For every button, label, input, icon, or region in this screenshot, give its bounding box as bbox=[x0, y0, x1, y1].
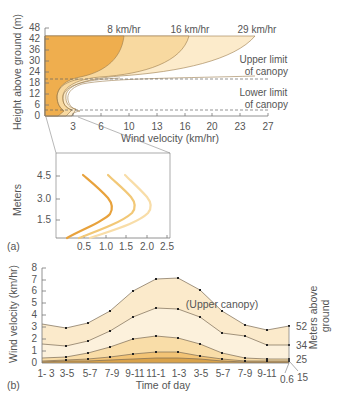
x-tick-labels: 3 6 10 13 16 20 23 27 bbox=[70, 121, 274, 132]
label-06: 0.6 bbox=[280, 374, 294, 385]
label-34: 34 bbox=[296, 340, 308, 351]
x-tick-label: 3-5 bbox=[60, 368, 75, 379]
panel-label-a: (a) bbox=[7, 240, 20, 252]
x-tick-label: 1.0 bbox=[99, 241, 113, 252]
inset-chart: 4.5 3.0 1.5 0.5 1.0 1.5 2.0 2.5 Meters (… bbox=[7, 153, 174, 252]
x-tick-label: 2.0 bbox=[140, 241, 154, 252]
x-tick-label: 5-7 bbox=[83, 368, 98, 379]
top-chart: 0 6 12 18 24 30 36 42 48 3 6 10 13 16 20… bbox=[11, 14, 290, 153]
y-tick-label: 0 bbox=[34, 110, 40, 121]
x-tick-label: 11-1 bbox=[146, 368, 166, 379]
y-tick-label: 18 bbox=[29, 77, 41, 88]
x-tick-label: 3-5 bbox=[194, 368, 209, 379]
inset-y-tick-labels: 4.5 3.0 1.5 bbox=[37, 170, 51, 225]
y-tick-label: 8 bbox=[31, 262, 37, 273]
x-tick-label: 9-11 bbox=[125, 368, 145, 379]
x-tick-label: 0.5 bbox=[77, 241, 91, 252]
x-tick-label: 2.5 bbox=[160, 241, 174, 252]
y-tick-label: 4 bbox=[31, 309, 37, 320]
x-tick-label: 1- 3 bbox=[37, 368, 55, 379]
y-tick-label: 36 bbox=[29, 44, 41, 55]
panel-label-b: (b) bbox=[7, 379, 20, 391]
y-tick-label: 1 bbox=[31, 345, 37, 356]
upper-canopy-annotation: (Upper canopy) bbox=[186, 298, 258, 310]
label-52: 52 bbox=[296, 321, 308, 332]
y-tick-label: 42 bbox=[29, 33, 41, 44]
inset-y-ticks bbox=[56, 176, 60, 220]
x-tick-label: 20 bbox=[206, 121, 218, 132]
y-tick-label: 5 bbox=[31, 297, 37, 308]
y-tick-label: 48 bbox=[29, 22, 41, 33]
x-tick-label: 1.5 bbox=[119, 241, 133, 252]
x-tick-label: 13 bbox=[151, 121, 163, 132]
y-axis-title: Height above ground (m) bbox=[11, 14, 23, 130]
y-tick-label: 6 bbox=[31, 285, 37, 296]
x-tick-label: 3 bbox=[70, 121, 76, 132]
y-tick-label: 0 bbox=[31, 357, 37, 368]
label-25: 25 bbox=[296, 354, 308, 365]
y-tick-label: 3.0 bbox=[37, 193, 51, 204]
x-axis-title: Wind velocity (km/hr) bbox=[121, 132, 219, 144]
y-tick-label: 1.5 bbox=[37, 214, 51, 225]
right-axis-title: Meters above ground bbox=[307, 283, 331, 350]
b-y-axis-title: Wind velocity (km/hr) bbox=[7, 265, 19, 363]
inset-y-axis-title: Meters bbox=[11, 184, 23, 216]
x-tick-label: 5-7 bbox=[216, 368, 231, 379]
bottom-chart: 0 1 2 3 4 5 6 7 8 1- 3 3-5 5-7 7-9 9-11 … bbox=[7, 262, 331, 391]
y-tick-label: 6 bbox=[34, 99, 40, 110]
upper-limit-label: Upper limit of canopy bbox=[239, 54, 290, 77]
x-tick-label: 7-9 bbox=[238, 368, 253, 379]
x-tick-label: 7-9 bbox=[105, 368, 120, 379]
lower-limit-label: Lower limit of canopy bbox=[239, 87, 290, 110]
x-tick-label: 10 bbox=[123, 121, 135, 132]
zoom-connector-left bbox=[46, 117, 56, 153]
b-y-tick-labels: 0 1 2 3 4 5 6 7 8 bbox=[31, 262, 37, 368]
x-tick-label: 9-11 bbox=[257, 368, 277, 379]
y-tick-label: 30 bbox=[29, 55, 41, 66]
inset-curve-29 bbox=[90, 175, 151, 238]
y-tick-label: 24 bbox=[29, 66, 41, 77]
series-label-16: 16 km/hr bbox=[171, 24, 211, 35]
y-tick-label: 2 bbox=[31, 333, 37, 344]
y-tick-label: 4.5 bbox=[37, 170, 51, 181]
series-label-29: 29 km/hr bbox=[238, 24, 278, 35]
x-tick-label: 1-3 bbox=[172, 368, 187, 379]
x-tick-label: 27 bbox=[262, 121, 274, 132]
series-label-8: 8 km/hr bbox=[107, 24, 141, 35]
y-tick-label: 3 bbox=[31, 321, 37, 332]
b-x-tick-labels: 1- 3 3-5 5-7 7-9 9-11 11-1 1-3 3-5 5-7 7… bbox=[37, 368, 277, 379]
x-tick-label: 16 bbox=[179, 121, 191, 132]
y-tick-labels: 0 6 12 18 24 30 36 42 48 bbox=[29, 22, 41, 121]
figure: 0 6 12 18 24 30 36 42 48 3 6 10 13 16 20… bbox=[0, 0, 344, 405]
b-x-axis-title: Time of day bbox=[136, 379, 191, 391]
label-15: 15 bbox=[297, 372, 309, 383]
y-tick-label: 7 bbox=[31, 274, 37, 285]
leader-06 bbox=[285, 363, 289, 373]
y-tick-label: 12 bbox=[29, 88, 41, 99]
x-tick-label: 6 bbox=[98, 121, 104, 132]
inset-x-tick-labels: 0.5 1.0 1.5 2.0 2.5 bbox=[77, 241, 174, 252]
x-tick-label: 23 bbox=[234, 121, 246, 132]
x-ticks bbox=[73, 113, 268, 116]
